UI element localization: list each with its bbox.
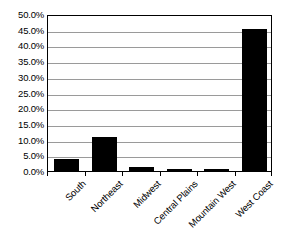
y-axis-tick-label: 40.0% <box>0 41 44 51</box>
y-axis-tick-label: 35.0% <box>0 57 44 67</box>
y-axis-tick-label: 15.0% <box>0 120 44 130</box>
x-axis: SouthNortheastMidwestCentral PlainsMount… <box>0 172 281 241</box>
bar <box>92 137 117 171</box>
bar <box>129 167 154 171</box>
bar <box>242 29 267 171</box>
y-axis-tick-label: 45.0% <box>0 26 44 36</box>
y-axis-tick-label: 25.0% <box>0 89 44 99</box>
y-axis-tick-label: 10.0% <box>0 136 44 146</box>
bar <box>204 169 229 171</box>
bar <box>54 159 79 171</box>
y-axis-tick-label: 5.0% <box>0 151 44 161</box>
y-axis-tick-label: 30.0% <box>0 73 44 83</box>
plot-area <box>47 15 272 172</box>
bars-group <box>48 16 271 171</box>
bar <box>167 169 192 171</box>
y-axis-tick-label: 20.0% <box>0 104 44 114</box>
bar-chart: 50.0%45.0%40.0%35.0%30.0%25.0%20.0%15.0%… <box>0 0 281 241</box>
y-axis-tick-label: 50.0% <box>0 10 44 20</box>
